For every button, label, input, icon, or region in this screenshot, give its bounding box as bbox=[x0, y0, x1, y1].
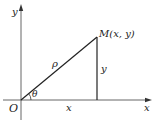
y-axis-arrow-icon bbox=[19, 4, 23, 11]
radius-label: ρ bbox=[51, 58, 58, 69]
origin-label: O bbox=[9, 102, 18, 115]
x-axis-label: x bbox=[144, 102, 150, 113]
angle-arc bbox=[29, 94, 31, 100]
horizontal-leg-label: x bbox=[66, 102, 72, 113]
point-label: M(x, y) bbox=[98, 28, 135, 39]
polar-coordinate-diagram: y x O M(x, y) ρ θ y x bbox=[0, 0, 154, 123]
y-axis-label: y bbox=[11, 6, 18, 17]
vertical-leg-label: y bbox=[100, 63, 107, 74]
angle-label: θ bbox=[32, 89, 38, 99]
